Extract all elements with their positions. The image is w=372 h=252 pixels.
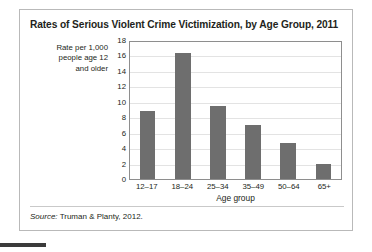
bar-slot bbox=[236, 42, 271, 179]
x-axis-ticks: 12–1718–2425–3435–4950–6465+ bbox=[129, 182, 342, 191]
y-axis-tick-label: 8 bbox=[111, 114, 126, 122]
x-axis-tick-label: 65+ bbox=[307, 182, 343, 191]
bar bbox=[140, 111, 156, 179]
y-axis-title-line-2: people age 12 bbox=[30, 53, 108, 63]
bar bbox=[210, 106, 226, 179]
y-axis-tick-label: 12 bbox=[111, 83, 126, 91]
bar bbox=[316, 164, 332, 179]
bar-slot bbox=[271, 42, 306, 179]
bar bbox=[280, 143, 296, 179]
page-edge-marker bbox=[0, 243, 46, 247]
figure-title: Rates of Serious Violent Crime Victimiza… bbox=[30, 19, 344, 31]
y-axis-tick-label: 0 bbox=[111, 176, 126, 184]
bar-chart: Rate per 1,000 people age 12 and older 1… bbox=[30, 41, 344, 201]
bar bbox=[245, 125, 261, 179]
source-text: Truman & Planty, 2012. bbox=[58, 212, 143, 221]
y-axis-tick-label: 2 bbox=[111, 161, 126, 169]
x-axis-tick-label: 12–17 bbox=[129, 182, 165, 191]
y-axis-ticks: 181614121086420 bbox=[111, 41, 126, 180]
y-axis-tick-label: 16 bbox=[111, 52, 126, 60]
bars-layer bbox=[130, 42, 341, 179]
y-axis-title: Rate per 1,000 people age 12 and older bbox=[30, 43, 108, 74]
source-label: Source: bbox=[30, 212, 58, 221]
figure-frame: Rates of Serious Violent Crime Victimiza… bbox=[19, 9, 353, 231]
bar-slot bbox=[306, 42, 341, 179]
y-axis-tick-label: 18 bbox=[111, 37, 126, 45]
plot-wrapper: 181614121086420 12–1718–2425–3435–4950–6… bbox=[111, 41, 344, 189]
bar-slot bbox=[130, 42, 165, 179]
source-divider bbox=[30, 206, 344, 207]
plot-area bbox=[129, 41, 342, 180]
bar-slot bbox=[165, 42, 200, 179]
x-axis-tick-label: 35–49 bbox=[236, 182, 272, 191]
y-axis-tick-label: 4 bbox=[111, 145, 126, 153]
y-axis-tick-label: 6 bbox=[111, 130, 126, 138]
bar bbox=[175, 53, 191, 179]
x-axis-tick-label: 18–24 bbox=[165, 182, 201, 191]
x-axis-tick-label: 25–34 bbox=[200, 182, 236, 191]
x-axis-title: Age group bbox=[129, 193, 342, 203]
y-axis-title-line-3: and older bbox=[30, 64, 108, 74]
source-note: Source: Truman & Planty, 2012. bbox=[30, 212, 143, 222]
x-axis-tick-label: 50–64 bbox=[271, 182, 307, 191]
y-axis-tick-label: 14 bbox=[111, 68, 126, 76]
y-axis-title-line-1: Rate per 1,000 bbox=[30, 43, 108, 53]
bar-slot bbox=[200, 42, 235, 179]
y-axis-tick-label: 10 bbox=[111, 99, 126, 107]
